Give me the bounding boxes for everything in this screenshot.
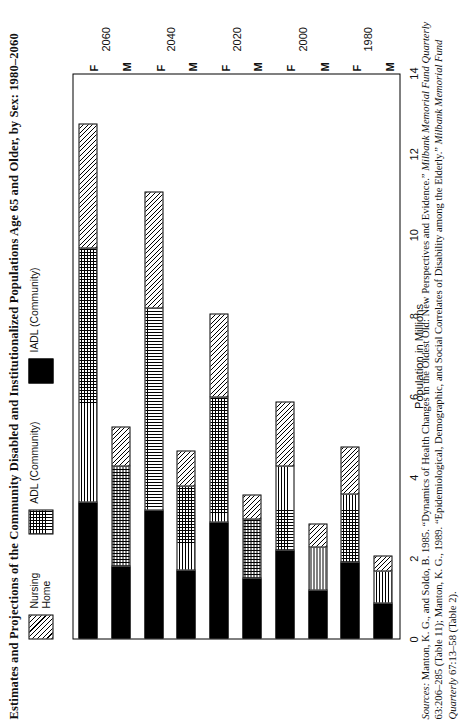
bar-segment-iadl [176, 569, 195, 638]
bar-segment-iadl [340, 561, 359, 638]
bar-segment-nursing [373, 555, 392, 571]
bar-segment-adl [275, 465, 294, 550]
bar-segment-nursing [209, 313, 228, 398]
bar-segment-adl [209, 396, 228, 521]
bar-segment-adl [111, 465, 130, 566]
bar-2020-M [242, 494, 261, 638]
year-label-2040: 2040 [164, 27, 176, 51]
sources-journal-1: Milbank Memorial Fund Quarterly [419, 21, 430, 170]
bar-2040-F [144, 191, 163, 638]
plot-area [72, 73, 400, 639]
bar-segment-iadl [144, 509, 163, 638]
figure-title: Estimates and Projections of the Communi… [6, 7, 20, 719]
bar-1980-F [340, 446, 359, 638]
bar-segment-adl [242, 518, 261, 579]
sources-lead: Sources: [419, 682, 430, 719]
year-label-2000: 2000 [296, 27, 308, 51]
bar-segment-nursing [242, 494, 261, 518]
sources-line3c: 67:13–58 [446, 635, 457, 678]
sources-line1: Manton, K. G., and Soldo, B. 1985. “Dyna… [419, 222, 430, 682]
bar-segment-nursing [176, 450, 195, 486]
bar-segment-adl [308, 546, 327, 590]
bar-segment-nursing [340, 446, 359, 495]
bar-2020-F [209, 313, 228, 638]
bar-segment-adl [144, 308, 163, 510]
bar-1980-M [373, 555, 392, 638]
sources-line2a: Evidence.” [419, 170, 430, 219]
bar-segment-iadl [78, 501, 97, 638]
bar-segment-iadl [111, 565, 130, 638]
bar-series-container [73, 74, 399, 638]
legend-swatch-iadl-community-icon [28, 358, 53, 383]
bar-segment-iadl [373, 602, 392, 638]
bar-2000-F [275, 402, 294, 639]
bar-segment-nursing [275, 402, 294, 467]
legend-swatch-adl-community-icon [28, 509, 53, 534]
bar-2060-F [78, 123, 97, 638]
bar-segment-iadl [308, 590, 327, 639]
bar-segment-nursing [308, 523, 327, 547]
sources-line2c: 63:206–285 (Table 11); Manton, K. G., 19… [432, 446, 443, 719]
legend-label-nursing-home: Nursing Home [28, 572, 51, 608]
legend-swatch-nursing-home-icon [28, 614, 53, 639]
legend-label-adl-community: ADL (Community) [28, 421, 40, 503]
year-label-1980: 1980 [361, 27, 373, 51]
figure-frame: Estimates and Projections of the Communi… [0, 0, 459, 725]
bar-segment-iadl [275, 549, 294, 638]
chart-legend: Nursing Home ADL (Community) IADL (Commu… [28, 267, 53, 639]
sources-line3a: Demographic, and Social Correlates of Di… [432, 144, 443, 444]
legend-label-iadl-community: IADL (Community) [28, 267, 40, 352]
year-label-2060: 2060 [99, 27, 111, 51]
bar-2000-M [308, 523, 327, 638]
bar-segment-iadl [209, 521, 228, 638]
bar-segment-adl [373, 570, 392, 602]
sources-line4: (Table 2). [446, 591, 457, 632]
bar-segment-iadl [242, 577, 261, 638]
bar-segment-adl [78, 247, 97, 502]
legend-item-nursing-home: Nursing Home [28, 572, 53, 639]
sources-note: Sources: Manton, K. G., and Soldo, B. 19… [418, 19, 458, 719]
year-label-2020: 2020 [230, 27, 242, 51]
bar-2040-M [176, 450, 195, 638]
bar-segment-adl [340, 493, 359, 562]
bar-2060-M [111, 426, 130, 638]
bar-segment-nursing [144, 191, 163, 308]
bar-segment-nursing [78, 123, 97, 248]
legend-item-adl-community: ADL (Community) [28, 421, 53, 534]
bar-segment-nursing [111, 426, 130, 466]
category-axis: MFMFMFMFMF19802000202020402060 [72, 9, 400, 73]
bar-segment-adl [176, 485, 195, 570]
legend-item-iadl-community: IADL (Community) [28, 267, 53, 383]
